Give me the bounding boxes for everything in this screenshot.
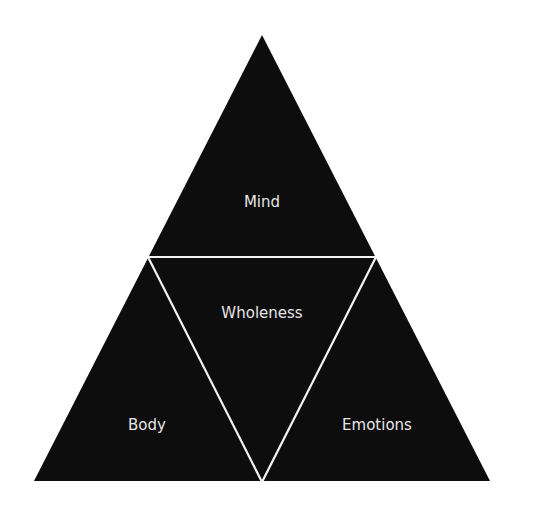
wholeness-triangle-diagram [0, 0, 533, 516]
section-label-mind: Mind [244, 193, 280, 211]
section-label-body: Body [128, 416, 166, 434]
section-label-emotions: Emotions [342, 416, 412, 434]
section-label-wholeness: Wholeness [221, 304, 302, 322]
